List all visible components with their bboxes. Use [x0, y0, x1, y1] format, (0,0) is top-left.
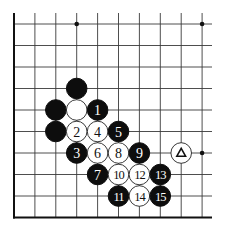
star-point-icon	[200, 151, 205, 156]
star-point-icon	[200, 22, 205, 27]
move-number-label: 9	[136, 146, 143, 161]
white-stone-12: 12	[129, 164, 150, 185]
black-stone-icon	[46, 100, 67, 121]
black-stone	[46, 100, 67, 121]
move-number-label: 4	[94, 125, 101, 140]
black-stone-11: 11	[108, 186, 129, 207]
move-number-label: 7	[94, 168, 101, 183]
white-stone-14: 14	[129, 186, 150, 207]
black-stone-7: 7	[87, 164, 108, 185]
black-stone-5: 5	[108, 121, 129, 142]
move-number-label: 14	[134, 190, 146, 204]
move-number-label: 15	[155, 190, 166, 204]
move-number-label: 2	[73, 125, 80, 140]
move-number-label: 3	[73, 146, 80, 161]
black-stone-icon	[66, 78, 87, 99]
white-stone-icon	[171, 143, 192, 164]
move-number-label: 5	[115, 125, 122, 140]
black-stone-icon	[46, 121, 67, 142]
black-stone-9: 9	[129, 143, 150, 164]
move-number-label: 8	[115, 146, 122, 161]
go-board-diagram: 124536897101213111415	[0, 0, 227, 229]
white-stone-2: 2	[66, 121, 87, 142]
black-stone	[46, 121, 67, 142]
white-stone-6: 6	[87, 143, 108, 164]
black-stone-3: 3	[66, 143, 87, 164]
white-stone-8: 8	[108, 143, 129, 164]
black-stone-15: 15	[150, 186, 171, 207]
move-number-label: 11	[113, 190, 124, 204]
move-number-label: 10	[113, 168, 124, 182]
move-number-label: 1	[94, 103, 101, 118]
star-point-icon	[74, 22, 79, 27]
go-board: 124536897101213111415	[0, 0, 227, 229]
white-stone	[171, 143, 192, 164]
black-stone-1: 1	[87, 100, 108, 121]
white-stone	[66, 100, 87, 121]
white-stone-10: 10	[108, 164, 129, 185]
black-stone	[66, 78, 87, 99]
white-stone-4: 4	[87, 121, 108, 142]
move-number-label: 6	[94, 146, 101, 161]
move-number-label: 12	[134, 168, 145, 182]
move-number-label: 13	[155, 168, 166, 182]
white-stone-icon	[66, 100, 87, 121]
black-stone-13: 13	[150, 164, 171, 185]
